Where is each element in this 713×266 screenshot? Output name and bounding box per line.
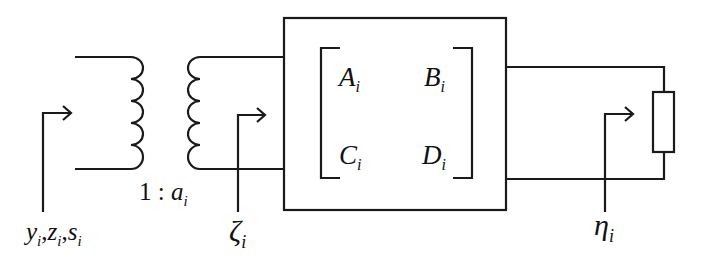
left-bracket — [321, 48, 340, 178]
b-entry: B — [424, 62, 441, 92]
b-entry-subscript: i — [441, 78, 446, 96]
load-resistor-icon — [653, 92, 674, 152]
right-bracket — [453, 48, 472, 178]
matrix-d: Di — [422, 140, 446, 175]
primary-coil-icon — [131, 57, 143, 169]
eta-label: ηi — [594, 208, 614, 247]
c-entry-subscript: i — [357, 156, 362, 174]
ratio-prefix: 1 : — [139, 178, 171, 205]
matrix-a: Ai — [339, 62, 360, 97]
turns-ratio-label: 1 : ai — [139, 178, 188, 210]
zeta-label: ζi — [229, 214, 246, 253]
input-arrow-icon — [43, 113, 70, 212]
eta-arrow-icon — [605, 114, 632, 212]
d-entry-subscript: i — [442, 156, 447, 174]
y-symbol: y — [26, 218, 37, 245]
zeta-subscript: i — [241, 232, 246, 252]
output-top-wire — [506, 67, 664, 92]
s-subscript: i — [77, 233, 81, 249]
z-symbol: z — [48, 218, 58, 245]
a-subscript: i — [183, 193, 187, 209]
eta-subscript: i — [609, 226, 614, 246]
matrix-c: Ci — [339, 140, 362, 175]
input-quantities-label: yi,zi,si — [26, 218, 82, 250]
zeta-arrow-icon — [238, 115, 264, 212]
a-symbol: a — [171, 178, 184, 205]
secondary-coil-icon — [188, 57, 200, 169]
a-entry: A — [339, 62, 356, 92]
matrix-b: Bi — [424, 62, 445, 97]
eta-symbol: η — [594, 208, 609, 241]
a-entry-subscript: i — [356, 78, 361, 96]
output-bottom-wire — [506, 152, 664, 179]
c-entry: C — [339, 140, 357, 170]
d-entry: D — [422, 140, 442, 170]
zeta-symbol: ζ — [229, 214, 241, 247]
s-symbol: s — [68, 218, 78, 245]
